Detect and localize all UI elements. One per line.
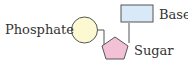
base-rectangle xyxy=(121,5,153,22)
base-label: Base xyxy=(159,8,188,21)
phosphate-circle xyxy=(72,17,98,43)
sugar-pentagon xyxy=(102,37,128,59)
sugar-label: Sugar xyxy=(134,44,174,57)
phosphate-sugar-bond xyxy=(98,30,104,45)
phosphate-label: Phosphate xyxy=(5,23,74,36)
